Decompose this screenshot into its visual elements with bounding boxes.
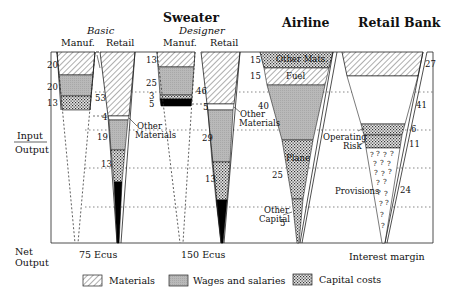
- svg-text:?: ?: [374, 169, 378, 177]
- title-sweater: Sweater: [163, 10, 220, 25]
- value-basic-retail-materials: 53: [95, 93, 106, 103]
- title-retail-bank: Retail Bank: [358, 15, 441, 30]
- svg-text:?: ?: [383, 151, 387, 159]
- svg-text:?: ?: [388, 168, 392, 176]
- value-airline-wages: 40: [258, 101, 269, 111]
- label-provisions: Provisions: [335, 186, 379, 196]
- net-output-basic: 75 Ecus: [79, 249, 117, 260]
- label-output: Output: [15, 144, 49, 155]
- legend-capital: Capital costs: [319, 274, 381, 285]
- label-designer-retail: Retail: [210, 37, 238, 48]
- label-basic: Basic: [86, 25, 115, 36]
- basic-manuf-funnel: [57, 52, 95, 243]
- value-designer-retail-capital: 13: [205, 174, 216, 184]
- value-bank-provisions: 24: [400, 185, 411, 195]
- svg-text:?: ?: [385, 199, 389, 207]
- svg-text:?: ?: [373, 160, 377, 168]
- label-plane: Plane: [286, 153, 310, 163]
- value-bank-oprisk-a: 6: [411, 124, 416, 134]
- label-risk: Risk: [343, 141, 362, 151]
- net-output-bank: Interest margin: [349, 251, 425, 262]
- svg-text:?: ?: [380, 159, 384, 167]
- label-other-capital-b: Capital: [259, 214, 290, 224]
- label-basic-manuf: Manuf.: [61, 37, 95, 48]
- value-bank-oprisk-b: 11: [409, 139, 420, 149]
- designer-retail-funnel: [201, 52, 240, 243]
- legend-swatch-materials: [83, 275, 102, 286]
- svg-text:?: ?: [379, 200, 383, 208]
- svg-text:?: ?: [384, 190, 388, 198]
- svg-text:?: ?: [370, 151, 374, 159]
- value-basic-manuf-materials: 20: [47, 60, 58, 70]
- value-basic-manuf-wages: 20: [47, 82, 58, 92]
- value-chain-diagram: ???? ??? ??? ?? ?? ?? ?? Sweater Basic M…: [0, 0, 449, 308]
- svg-text:?: ?: [390, 150, 394, 158]
- value-airline-fuel: 15: [250, 71, 261, 81]
- value-airline-plane: 25: [272, 170, 283, 180]
- legend-wages: Wages and salaries: [193, 275, 286, 286]
- svg-text:?: ?: [376, 150, 380, 158]
- label-basic-retail: Retail: [106, 37, 134, 48]
- designer-manuf-funnel: [157, 52, 195, 243]
- svg-text:?: ?: [383, 178, 387, 186]
- title-airline: Airline: [281, 15, 330, 30]
- basic-retail-funnel: [96, 52, 135, 243]
- value-designer-retail-materials: 46: [196, 86, 207, 96]
- legend-swatch-wages: [169, 275, 188, 286]
- value-basic-retail-capital: 13: [101, 159, 112, 169]
- label-net-output: Output: [15, 257, 49, 268]
- value-bank-materials: 27: [425, 59, 436, 69]
- label-other-mats: Other Mats.: [276, 54, 328, 64]
- label-other-materials-1b: Materials: [135, 130, 176, 140]
- svg-text:?: ?: [387, 160, 391, 168]
- svg-text:?: ?: [381, 170, 385, 178]
- value-basic-manuf-capital: 13: [47, 98, 58, 108]
- value-designer-manuf-wages: 25: [146, 78, 157, 88]
- value-designer-manuf-materials: 13: [146, 55, 157, 65]
- label-designer-manuf: Manuf.: [163, 37, 197, 48]
- net-output-designer: 150 Ecus: [181, 249, 226, 260]
- label-designer: Designer: [178, 25, 226, 36]
- value-designer-manuf-black: 5: [149, 99, 154, 109]
- label-input: Input: [17, 130, 43, 141]
- label-fuel: Fuel: [286, 71, 305, 81]
- legend-swatch-capital: [293, 274, 312, 285]
- value-designer-retail-wages: 29: [202, 133, 213, 143]
- value-basic-retail-wages: 19: [97, 132, 108, 142]
- svg-text:?: ?: [381, 222, 385, 230]
- value-bank-wages: 41: [416, 100, 427, 110]
- label-other-materials-2b: Materials: [239, 118, 280, 128]
- value-designer-retail-other: 5: [203, 102, 208, 112]
- legend: Materials Wages and salaries Capital cos…: [83, 274, 381, 286]
- label-net: Net: [15, 246, 33, 257]
- value-basic-retail-other: 4: [102, 112, 107, 122]
- legend-materials: Materials: [109, 275, 155, 286]
- diagram-canvas: ???? ??? ??? ?? ?? ?? ?? Sweater Basic M…: [0, 0, 449, 308]
- svg-text:?: ?: [380, 211, 384, 219]
- value-airline-other-mats: 15: [250, 55, 261, 65]
